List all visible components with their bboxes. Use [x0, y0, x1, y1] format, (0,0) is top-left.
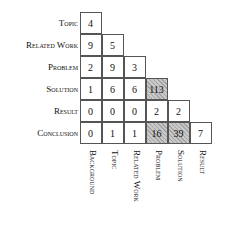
matrix-cell: 0 [80, 122, 102, 144]
matrix-cell: 1 [102, 122, 124, 144]
col-label-background: Background [80, 150, 102, 230]
matrix-cell: 6 [124, 78, 146, 100]
row-label-result: Result [54, 100, 78, 122]
matrix-cell: 0 [124, 100, 146, 122]
row-label-topic: Topic [59, 12, 78, 34]
col-label-related-work: Related Work [124, 150, 146, 230]
matrix-cell: 2 [146, 100, 168, 122]
matrix-cell: 1 [80, 78, 102, 100]
matrix-cell-highlighted: 16 [146, 122, 168, 144]
row-label-conclusion: Conclusion [37, 122, 78, 144]
col-label-problem: Problem [146, 150, 168, 230]
col-label-text: Problem [154, 150, 164, 180]
matrix-cell-highlighted: 39 [168, 122, 190, 144]
col-label-text: Solution [176, 150, 186, 182]
matrix-cell: 7 [190, 122, 212, 144]
col-label-result: Result [190, 150, 212, 230]
matrix-cell: 4 [80, 12, 102, 34]
matrix-cell: 1 [124, 122, 146, 144]
matrix-cell: 5 [102, 34, 124, 56]
col-label-text: Result [198, 150, 208, 174]
matrix-cell: 0 [80, 100, 102, 122]
col-label-text: Topic [110, 150, 120, 169]
row-label-related-work: Related Work [26, 34, 78, 56]
row-label-problem: Problem [48, 56, 78, 78]
col-label-text: Background [88, 150, 98, 194]
matrix-cell: 2 [80, 56, 102, 78]
col-label-solution: Solution [168, 150, 190, 230]
matrix-cell: 0 [102, 100, 124, 122]
matrix-cell: 3 [124, 56, 146, 78]
col-label-topic: Topic [102, 150, 124, 230]
matrix-cell-highlighted: 113 [146, 78, 168, 100]
matrix-cell: 9 [102, 56, 124, 78]
row-label-solution: Solution [46, 78, 78, 100]
matrix-cell: 6 [102, 78, 124, 100]
col-label-text: Related Work [132, 150, 142, 202]
matrix-cell: 2 [168, 100, 190, 122]
matrix-cell: 9 [80, 34, 102, 56]
